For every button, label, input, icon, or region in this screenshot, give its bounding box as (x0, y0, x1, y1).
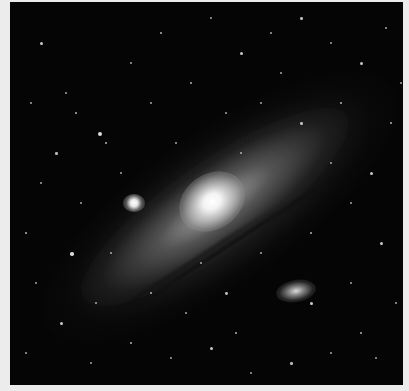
star (25, 232, 27, 234)
star (98, 132, 102, 136)
star (300, 122, 303, 125)
star (330, 42, 332, 44)
star (310, 232, 312, 234)
galaxy-photo (10, 2, 403, 385)
star (30, 102, 32, 104)
star (90, 362, 92, 364)
star (385, 27, 387, 29)
star (350, 202, 352, 204)
star (270, 32, 272, 34)
star (300, 17, 303, 20)
star (190, 82, 192, 84)
star (35, 282, 37, 284)
star (210, 347, 213, 350)
star (120, 172, 122, 174)
star (330, 352, 332, 354)
star (225, 112, 227, 114)
star (395, 302, 397, 304)
star (310, 302, 313, 305)
star (65, 92, 67, 94)
star (170, 357, 172, 359)
star (375, 357, 377, 359)
star (175, 142, 177, 144)
star (260, 102, 262, 104)
star (360, 62, 363, 65)
star (360, 332, 362, 334)
star (350, 282, 352, 284)
star (25, 352, 27, 354)
satellite-galaxy-m32 (123, 194, 145, 212)
star (400, 82, 402, 84)
satellite-galaxy-m110 (274, 277, 317, 306)
star (160, 32, 162, 34)
star (185, 312, 187, 314)
star (105, 142, 107, 144)
star (40, 182, 42, 184)
star (95, 302, 97, 304)
star (290, 362, 293, 365)
star (55, 152, 58, 155)
star (150, 102, 152, 104)
star (80, 202, 82, 204)
star (240, 52, 243, 55)
star (130, 342, 132, 344)
star (200, 262, 202, 264)
star (240, 152, 242, 154)
star (280, 72, 282, 74)
star (75, 112, 77, 114)
star (380, 242, 383, 245)
star (235, 332, 237, 334)
star (210, 17, 212, 19)
star (40, 42, 43, 45)
star (225, 292, 228, 295)
star (70, 252, 74, 256)
star (330, 162, 332, 164)
star (60, 322, 63, 325)
star (130, 62, 132, 64)
star (260, 252, 262, 254)
star (250, 372, 252, 374)
star (110, 252, 112, 254)
star (370, 172, 373, 175)
